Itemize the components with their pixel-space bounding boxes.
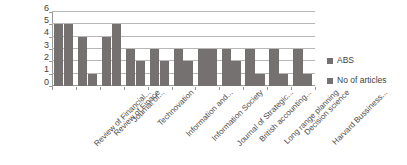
y-tick-label: 3 [44,40,49,49]
legend-label: ABS [337,56,354,65]
bar [64,24,73,86]
bars-layer [52,12,315,86]
bar-group [243,12,267,86]
x-axis-labels: Review of Financial...Review of FinaceJo… [0,88,330,160]
bar [88,74,97,86]
bar [293,49,302,86]
y-tick-label: 0 [44,77,49,86]
bar-group [267,12,291,86]
x-axis-label: Review of Financial... [92,88,152,148]
chart-legend: ABSNo of articles [327,56,405,96]
y-tick-mark [49,49,52,50]
y-tick-label: 4 [44,28,49,37]
bar [231,61,240,86]
bar-group [124,12,148,86]
bar [269,49,278,86]
y-tick-label: 2 [44,52,49,61]
bar [78,37,87,86]
bar [183,61,192,86]
bar [150,49,159,86]
y-tick-mark [49,74,52,75]
bar-group [291,12,315,86]
y-tick-mark [49,12,52,13]
x-axis-label: Information Society [210,88,265,143]
y-tick-mark [49,24,52,25]
y-tick-mark [49,37,52,38]
legend-swatch-icon [327,58,333,64]
bar-group [76,12,100,86]
bar-group [219,12,243,86]
bar [54,24,63,86]
bar [207,49,216,86]
bar [174,49,183,86]
bar [126,49,135,86]
bar [136,61,145,86]
y-tick-mark [49,61,52,62]
bar-group [195,12,219,86]
legend-entry[interactable]: No of articles [327,76,405,85]
legend-label: No of articles [337,76,387,85]
bar [222,49,231,86]
bar [160,61,169,86]
bar [279,74,288,86]
bar-group [148,12,172,86]
plot-area [52,12,315,86]
y-tick-label: 5 [44,15,49,24]
y-tick-mark [49,86,52,87]
bar [102,37,111,86]
legend-swatch-icon [327,78,333,84]
bar [245,49,254,86]
bar [112,24,121,86]
y-tick-label: 6 [44,3,49,12]
bar [303,74,312,86]
bar-group [172,12,196,86]
bar-group [100,12,124,86]
bar [198,49,207,86]
bar-group [52,12,76,86]
legend-entry[interactable]: ABS [327,56,405,65]
bar-chart: 0123456 Review of Financial...Review of … [0,0,407,165]
bar [255,74,264,86]
y-tick-label: 1 [44,65,49,74]
y-axis: 0123456 [36,12,49,86]
